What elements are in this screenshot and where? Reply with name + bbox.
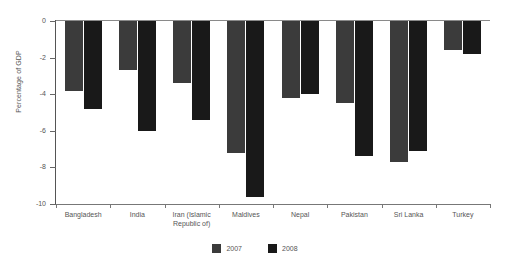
legend-label: 2007 [226, 245, 242, 252]
y-tick-label: 0 [20, 17, 46, 24]
legend-swatch-icon [212, 244, 221, 253]
x-tick-mark [327, 204, 328, 208]
bar-2008-pakistan [355, 21, 373, 156]
y-tick-label: -8 [20, 163, 46, 170]
x-tick-mark [382, 204, 383, 208]
x-tick-mark [110, 204, 111, 208]
x-tick-mark [436, 204, 437, 208]
bar-2007-nepal [282, 21, 300, 98]
y-tick-mark [50, 131, 56, 132]
x-tick-mark [273, 204, 274, 208]
x-tick-mark [165, 204, 166, 208]
bar-2008-maldives [246, 21, 264, 197]
x-axis-category-label: Bangladesh [56, 210, 110, 219]
y-tick-mark [50, 94, 56, 95]
bar-2007-india [119, 21, 137, 70]
x-axis-category-label: Nepal [273, 210, 327, 219]
chart-legend: 20072008 [0, 244, 510, 253]
bar-2008-turkey [463, 21, 481, 54]
bar-chart: Percentage of GDP 0-2-4-6-8-10 Banglades… [0, 0, 510, 277]
x-axis-category-label: Maldives [219, 210, 273, 219]
bar-2008-bangladesh [84, 21, 102, 109]
x-axis-category-label: Pakistan [327, 210, 381, 219]
legend-label: 2008 [282, 245, 298, 252]
y-tick-mark [50, 167, 56, 168]
y-axis-line [55, 20, 56, 205]
legend-item-2008[interactable]: 2008 [268, 244, 298, 253]
bar-2007-maldives [227, 21, 245, 153]
x-tick-mark [56, 204, 57, 208]
y-tick-mark [50, 21, 56, 22]
bar-2007-iranislamicrepublicof [173, 21, 191, 83]
legend-item-2007[interactable]: 2007 [212, 244, 242, 253]
y-tick-label: -6 [20, 127, 46, 134]
x-tick-mark [219, 204, 220, 208]
bar-2008-iranislamicrepublicof [192, 21, 210, 120]
y-tick-label: -2 [20, 54, 46, 61]
bar-2008-srilanka [409, 21, 427, 151]
x-axis-category-label: Sri Lanka [382, 210, 436, 219]
bar-2007-bangladesh [65, 21, 83, 91]
bar-2007-turkey [444, 21, 462, 50]
bar-2008-india [138, 21, 156, 131]
x-tick-mark [490, 204, 491, 208]
y-tick-label: -4 [20, 90, 46, 97]
legend-swatch-icon [268, 244, 277, 253]
y-tick-mark [50, 58, 56, 59]
x-axis-category-label: India [110, 210, 164, 219]
x-axis-category-label: Iran (IslamicRepublic of) [165, 210, 219, 228]
y-axis-title: Percentage of GDP [15, 22, 22, 142]
bar-2008-nepal [301, 21, 319, 94]
y-tick-label: -10 [20, 200, 46, 207]
bar-2007-pakistan [336, 21, 354, 103]
x-axis-category-label: Turkey [436, 210, 490, 219]
bar-2007-srilanka [390, 21, 408, 162]
